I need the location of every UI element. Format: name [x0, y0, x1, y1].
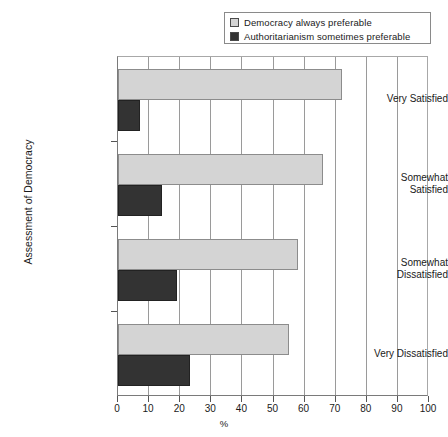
gridline-80 [366, 57, 367, 395]
x-axis-label-0: 0 [102, 403, 132, 414]
bar-authoritarianism-0 [118, 100, 140, 131]
legend-swatch-light-icon [230, 18, 239, 27]
bar-democracy-1 [118, 154, 323, 185]
x-axis-title: % [0, 418, 448, 429]
bar-democracy-3 [118, 324, 289, 355]
x-axis-label-50: 50 [258, 403, 288, 414]
x-axis-label-60: 60 [289, 403, 319, 414]
x-tick-40 [241, 396, 242, 402]
legend-item-authoritarianism: Authoritarianism sometimes preferable [230, 29, 426, 43]
plot-area [117, 56, 428, 396]
x-tick-70 [335, 396, 336, 402]
y-tick-0 [111, 141, 117, 142]
x-axis-label-80: 80 [351, 403, 381, 414]
y-tick-1 [111, 226, 117, 227]
x-axis-label-20: 20 [164, 403, 194, 414]
bar-democracy-0 [118, 69, 342, 100]
y-axis-title: Assessment of Democracy [22, 112, 34, 292]
x-tick-20 [179, 396, 180, 402]
gridline-70 [335, 57, 336, 395]
y-axis-label-0: Very Satisfied [344, 93, 448, 105]
x-tick-100 [428, 396, 429, 402]
y-axis-label-2: SomewhatDissatisfied [344, 257, 448, 281]
x-tick-90 [397, 396, 398, 402]
y-axis-label-3: Very Dissatisfied [344, 348, 448, 360]
legend-label-democracy: Democracy always preferable [244, 17, 372, 28]
x-tick-50 [273, 396, 274, 402]
x-axis-label-10: 10 [133, 403, 163, 414]
x-tick-80 [366, 396, 367, 402]
bar-democracy-2 [118, 239, 298, 270]
bar-authoritarianism-2 [118, 270, 177, 301]
bar-chart: Democracy always preferable Authoritaria… [0, 0, 448, 437]
y-tick-2 [111, 311, 117, 312]
y-axis-label-1: SomewhatSatisfied [344, 172, 448, 196]
gridline-60 [304, 57, 305, 395]
x-axis-label-40: 40 [226, 403, 256, 414]
legend-label-authoritarianism: Authoritarianism sometimes preferable [244, 31, 410, 42]
x-axis-label-70: 70 [320, 403, 350, 414]
gridline-90 [397, 57, 398, 395]
x-tick-60 [304, 396, 305, 402]
chart-legend: Democracy always preferable Authoritaria… [224, 12, 431, 44]
x-axis-label-30: 30 [195, 403, 225, 414]
x-tick-30 [210, 396, 211, 402]
x-axis-label-100: 100 [413, 403, 443, 414]
x-axis-label-90: 90 [382, 403, 412, 414]
legend-item-democracy: Democracy always preferable [230, 15, 426, 29]
x-tick-10 [148, 396, 149, 402]
bar-authoritarianism-3 [118, 355, 190, 386]
bar-authoritarianism-1 [118, 185, 162, 216]
legend-swatch-dark-icon [230, 32, 239, 41]
x-tick-0 [117, 396, 118, 402]
